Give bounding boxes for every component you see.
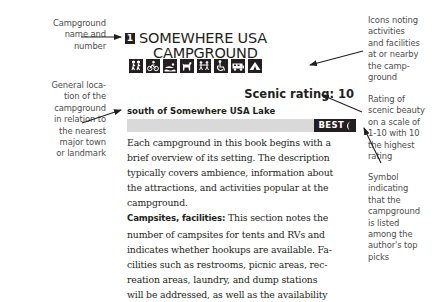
campground-number-badge: 1 — [125, 33, 135, 44]
annotation-scenic-rating: Rating of scenic beauty on a scale of 1-… — [368, 94, 438, 162]
best-label: BEST — [319, 119, 344, 132]
annotation-line: and facilities — [368, 38, 438, 49]
hiking-icon — [129, 59, 143, 73]
annotation-line: rating — [368, 151, 438, 162]
annotation-line: author's top — [368, 240, 438, 251]
annotation-line: Icons noting — [368, 15, 438, 26]
annotation-best-symbol: Symbol indicating that the campground is… — [368, 172, 438, 263]
annotation-line: campground — [14, 103, 106, 114]
annotation-line: is listed — [368, 218, 438, 229]
rv-icon — [231, 59, 245, 73]
annotation-line: the highest — [368, 140, 438, 151]
annotation-line: Rating of — [368, 94, 438, 105]
campsites-heading: Campsites, facilities: — [127, 213, 225, 223]
swimming-icon — [163, 59, 177, 73]
annotation-line: in relation to — [14, 114, 106, 125]
campground-title: 1 SOMEWHERE USA CAMPGROUND — [125, 31, 267, 60]
campsites-line: reation areas, laundry, and dump station… — [127, 272, 357, 287]
annotation-line: scenic beauty — [368, 105, 438, 116]
annotation-line: Campground — [14, 18, 106, 29]
crescent-moon-icon — [345, 121, 353, 131]
annotation-line: the camp- — [368, 61, 438, 72]
description-line: Each campground in this book begins with… — [127, 135, 357, 150]
annotation-line: General loca- — [14, 80, 106, 91]
campsites-line: cilities such as restrooms, picnic areas… — [127, 257, 357, 272]
tent-icon — [248, 59, 262, 73]
description-line: brief overview of its setting. The descr… — [127, 150, 357, 165]
annotation-campground-name: Campground name and number — [14, 18, 106, 52]
campground-description: Each campground in this book begins with… — [127, 135, 357, 302]
biking-icon — [146, 59, 160, 73]
annotation-line: tion of the — [14, 91, 106, 102]
annotation-line: 1-10 with 10 — [368, 128, 438, 139]
annotation-line: number — [14, 41, 106, 52]
best-badge: BEST — [314, 119, 356, 132]
campground-name-line2: CAMPGROUND — [139, 46, 267, 61]
description-line: the attractions, and activities popular … — [127, 180, 357, 195]
annotation-general-location: General loca- tion of the campground in … — [14, 80, 106, 160]
annotation-line: at or nearby — [368, 49, 438, 60]
annotation-line: activities — [368, 26, 438, 37]
campsites-text: This section notes the — [225, 212, 328, 223]
annotation-line: campground — [368, 206, 438, 217]
playground-icon — [197, 59, 211, 73]
description-line: campground. — [127, 195, 357, 210]
description-line: typically covers ambience, information a… — [127, 165, 357, 180]
campground-name-line1: SOMEWHERE USA — [139, 31, 267, 46]
annotation-line: major town — [14, 137, 106, 148]
annotation-line: that the — [368, 195, 438, 206]
annotation-line: indicating — [368, 183, 438, 194]
wheelchair-icon — [214, 59, 228, 73]
campsites-line: number of campsites for tents and RVs an… — [127, 227, 357, 242]
pets-icon — [180, 59, 194, 73]
annotation-line: the nearest — [14, 126, 106, 137]
annotation-line: among the — [368, 229, 438, 240]
campground-name: SOMEWHERE USA CAMPGROUND — [139, 31, 267, 60]
annotation-line: or landmark — [14, 148, 106, 159]
annotation-line: picks — [368, 252, 438, 263]
annotation-line: ground — [368, 72, 438, 83]
annotation-activity-icons: Icons noting activities and facilities a… — [368, 15, 438, 83]
activity-icons — [129, 59, 262, 73]
annotation-line: on a scale of — [368, 117, 438, 128]
campground-location: south of Somewhere USA Lake — [127, 106, 275, 116]
campsites-facilities-line: Campsites, facilities: This section note… — [127, 210, 357, 226]
scenic-rating: Scenic rating: 10 — [244, 87, 354, 101]
campsites-line: indicates whether hookups are available.… — [127, 242, 357, 257]
annotation-line: name and — [14, 29, 106, 40]
arrow-to-icons — [310, 51, 363, 65]
annotation-line: Symbol — [368, 172, 438, 183]
campsites-line: will be addressed, as well as the availa… — [127, 287, 357, 302]
listing-header-bar: BEST — [127, 119, 356, 132]
